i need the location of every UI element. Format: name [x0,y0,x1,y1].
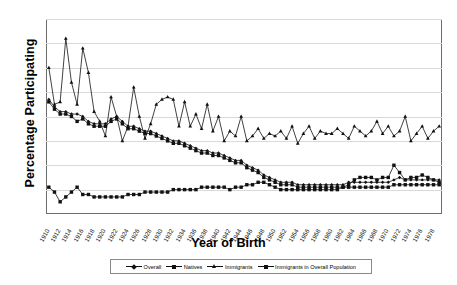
data-point [149,190,152,193]
data-point [256,181,259,184]
data-point [143,190,146,193]
legend-marker-icon [126,264,142,270]
data-point [239,161,242,164]
data-point [53,190,56,193]
data-point [228,188,231,191]
data-point [370,181,373,184]
data-point [75,102,79,105]
series-natives [47,100,441,189]
data-point [387,185,390,188]
legend-item-overall[interactable]: Overall [126,264,161,270]
data-point [183,188,186,191]
data-point [404,178,407,181]
legend-item-natives[interactable]: Natives [166,264,202,270]
data-point [364,181,367,184]
data-point [262,176,265,179]
legend-label: Natives [184,264,203,270]
data-point [387,176,390,179]
y-axis-title: Percentage Participating [23,18,41,208]
data-point [239,114,243,117]
data-point [251,168,254,171]
data-point [398,171,401,174]
data-point [307,124,311,127]
data-point [364,176,367,179]
data-point [256,171,259,174]
data-point [437,181,440,184]
data-point [200,127,204,130]
data-point [132,85,136,88]
series-overall [47,98,441,187]
data-point [386,124,390,127]
data-point [58,100,62,103]
x-axis-title: Year of Birth [0,236,457,250]
legend-item-immigrants-in-overall-population[interactable]: Immigrants in Overall Population [258,264,356,270]
data-point [104,195,107,198]
data-point [364,185,367,188]
data-point [104,134,108,137]
data-point [223,156,226,159]
data-point [415,183,418,186]
data-point [228,159,231,162]
data-point [302,188,305,191]
data-point [160,190,163,193]
data-point [341,185,344,188]
data-point [381,185,384,188]
legend-marker-icon [207,264,223,270]
legend-item-immigrants[interactable]: Immigrants [207,264,252,270]
data-point [155,190,158,193]
data-point [149,122,153,125]
data-point [279,129,283,132]
data-point [189,146,192,149]
data-point [398,183,401,186]
data-point [432,178,435,181]
data-point [137,114,141,117]
data-point [166,95,170,98]
data-point [421,178,424,181]
data-point [370,176,373,179]
data-point [81,46,85,49]
data-point [268,183,271,186]
data-point [172,142,175,145]
data-point [352,124,356,127]
data-point [330,188,333,191]
data-point [58,200,61,203]
data-point [206,185,209,188]
data-point [217,185,220,188]
data-point [290,124,294,127]
data-point [370,185,373,188]
data-point [239,185,242,188]
data-point [47,185,50,188]
data-point [47,66,51,69]
data-point [381,176,384,179]
data-point [70,190,73,193]
data-point [64,112,67,115]
data-point [415,176,418,179]
data-point [319,188,322,191]
data-point [194,188,197,191]
data-point [121,122,124,125]
data-point [53,107,56,110]
data-point [392,164,395,167]
data-point [279,188,282,191]
data-point [398,129,402,132]
data-point [109,195,112,198]
data-point [132,127,135,130]
data-point [217,154,220,157]
data-point [398,176,401,179]
data-point [245,183,248,186]
data-point [211,185,214,188]
data-point [409,183,412,186]
data-point [426,176,429,179]
data-point [347,183,350,186]
data-point [64,36,68,39]
legend-label: Immigrants in Overall Population [275,264,356,270]
data-point [87,71,91,74]
data-point [256,127,260,130]
chart-container: Percentage Participating 010203040506070… [0,0,457,285]
data-point [290,188,293,191]
data-point [296,188,299,191]
data-point [285,183,288,186]
legend-marker-icon [258,264,274,270]
data-point [183,144,186,147]
data-point [194,112,198,115]
